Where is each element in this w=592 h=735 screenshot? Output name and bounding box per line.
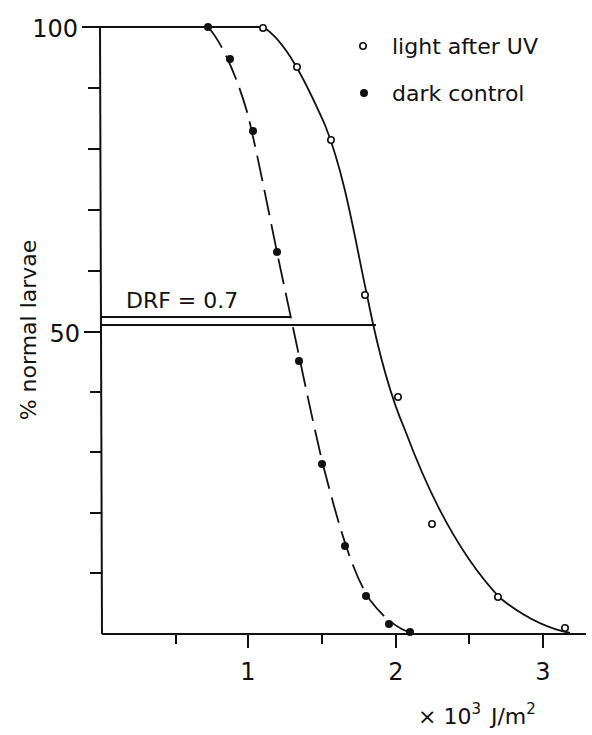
data-point (328, 137, 334, 143)
data-point (341, 542, 349, 550)
x-tick-label-1: 1 (240, 658, 255, 686)
data-point (362, 592, 370, 600)
data-point (562, 625, 568, 631)
data-point (429, 521, 435, 527)
data-point (273, 248, 281, 256)
data-point (495, 594, 501, 600)
filled-circle-icon (360, 89, 368, 97)
legend-label-light: light after UV (392, 34, 538, 59)
y-axis (100, 27, 102, 634)
drf-lines (101, 317, 376, 325)
data-point (385, 620, 393, 628)
dose-response-chart: 100 50 1 2 3 % normal larvae × 103J/m2 D… (0, 0, 592, 735)
axes (82, 27, 586, 634)
dark-control-points (204, 23, 414, 636)
data-point (249, 127, 257, 135)
data-point (318, 460, 326, 468)
data-point (295, 357, 303, 365)
dark-control-curve (102, 27, 412, 633)
x-unit-base: J/m (489, 704, 526, 729)
x-axis-label: × 103J/m2 (418, 700, 536, 729)
data-point (260, 25, 266, 31)
y-tick-label-100: 100 (32, 15, 78, 43)
open-circle-icon (360, 43, 366, 49)
data-point (226, 55, 234, 63)
x-tick-label-2: 2 (388, 658, 403, 686)
legend: light after UV dark control (360, 34, 538, 106)
x-ticks (176, 634, 543, 648)
light-after-uv-points (260, 25, 568, 631)
light-after-uv-curve (200, 27, 570, 633)
x-tick-label-3: 3 (535, 658, 550, 686)
data-point (406, 628, 414, 636)
y-tick-label-50: 50 (49, 320, 80, 348)
legend-label-dark: dark control (392, 81, 524, 106)
y-axis-label: % normal larvae (16, 240, 41, 421)
data-point (395, 394, 401, 400)
svg-text:× 103J/m2: × 103J/m2 (418, 700, 536, 729)
data-point (204, 23, 212, 31)
x-unit-exp2: 2 (526, 700, 536, 718)
y-ticks (84, 88, 101, 573)
data-point (362, 292, 368, 298)
x-unit-exp: 3 (471, 700, 481, 718)
data-point (294, 64, 300, 70)
drf-annotation: DRF = 0.7 (126, 288, 238, 313)
x-unit-prefix: × 10 (418, 704, 471, 729)
